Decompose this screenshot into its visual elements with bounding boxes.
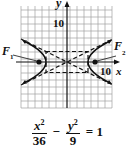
focus-left-label: F [1,44,10,58]
axes [16,4,116,108]
x-fraction: x2 36 [32,116,47,148]
focus-left-point [36,59,41,64]
focus-left-subscript: 1 [10,53,14,61]
x-denominator: 36 [33,134,46,148]
hyperbola-equation: x2 36 − y2 9 = 1 [0,114,135,150]
focus-right-subscript: 2 [122,49,126,57]
x-axis-label: x [115,65,122,77]
x-tick-label: 10 [100,65,112,77]
y-fraction: y2 9 [66,116,80,148]
y-tick-label: 10 [53,17,65,29]
y-denominator: 9 [70,134,77,148]
focus-right-label: F [113,39,122,53]
focus-right-point [92,59,97,64]
focus-left-pointer [13,55,37,61]
focus-right-pointer [97,56,116,61]
x-axis-arrow-icon [114,60,120,65]
equals-one: = 1 [86,124,103,140]
y-axis-label: y [54,0,62,10]
y-axis-arrow-icon [65,1,70,7]
minus-sign: − [53,124,60,140]
exponent: 2 [74,118,78,127]
exponent: 2 [41,118,45,127]
